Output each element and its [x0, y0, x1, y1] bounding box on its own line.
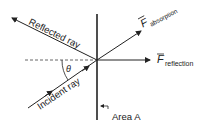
- svg-text:F: F: [157, 53, 165, 65]
- reflected-ray-label: Reflected ray: [27, 16, 82, 51]
- theta-label: θ: [66, 64, 71, 74]
- area-label: Area A: [112, 111, 141, 122]
- reflection-diagram: Reflected ray Incident ray θ F absorptio…: [0, 0, 204, 128]
- f-reflection-label: F reflection: [157, 53, 194, 67]
- svg-text:absorption: absorption: [148, 7, 179, 28]
- incident-ray-label: Incident ray: [35, 75, 82, 112]
- area-pointer-head: [100, 104, 104, 108]
- f-absorption-arrow: [97, 31, 141, 60]
- incident-arrow-mark-2: [82, 66, 89, 71]
- f-absorption-label: F absorption: [138, 1, 179, 32]
- svg-text:reflection: reflection: [165, 60, 194, 67]
